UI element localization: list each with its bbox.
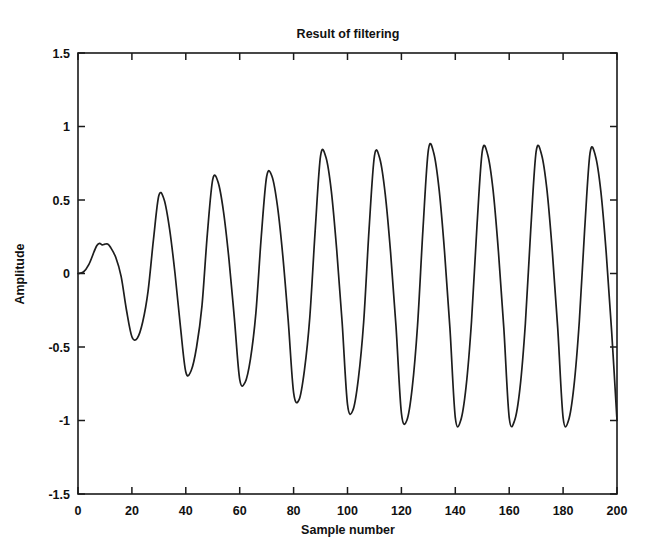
y-ticklabel: -0.5 — [48, 341, 70, 355]
x-ticklabel: 80 — [287, 504, 301, 518]
x-ticklabel: 100 — [337, 504, 358, 518]
figure-canvas: Result of filtering 02040608010012014016… — [0, 0, 655, 548]
chart-title: Result of filtering — [297, 27, 400, 41]
x-ticklabel: 120 — [391, 504, 412, 518]
chart-plot: Result of filtering 02040608010012014016… — [0, 0, 655, 548]
y-ticklabel: -1.5 — [48, 488, 70, 502]
y-axis-label: Amplitude — [13, 243, 27, 304]
x-ticklabel: 140 — [445, 504, 466, 518]
x-axis-ticklabels: 020406080100120140160180200 — [75, 504, 628, 518]
x-axis-label: Sample number — [301, 523, 395, 537]
x-ticklabel: 60 — [233, 504, 247, 518]
y-ticklabel: 1 — [63, 120, 70, 134]
x-axis-ticks — [78, 53, 617, 494]
y-ticklabel: -1 — [59, 414, 70, 428]
x-ticklabel: 180 — [553, 504, 574, 518]
x-ticklabel: 160 — [499, 504, 520, 518]
y-ticklabel: 0 — [63, 267, 70, 281]
y-ticklabel: 1.5 — [53, 47, 70, 61]
x-ticklabel: 20 — [125, 504, 139, 518]
x-ticklabel: 200 — [607, 504, 628, 518]
y-ticklabel: 0.5 — [53, 194, 70, 208]
x-ticklabel: 0 — [75, 504, 82, 518]
y-axis-ticks — [78, 53, 617, 494]
axes-frame — [78, 53, 617, 494]
x-ticklabel: 40 — [179, 504, 193, 518]
y-axis-ticklabels: -1.5-1-0.500.511.5 — [48, 47, 70, 502]
data-series-line — [78, 144, 617, 427]
